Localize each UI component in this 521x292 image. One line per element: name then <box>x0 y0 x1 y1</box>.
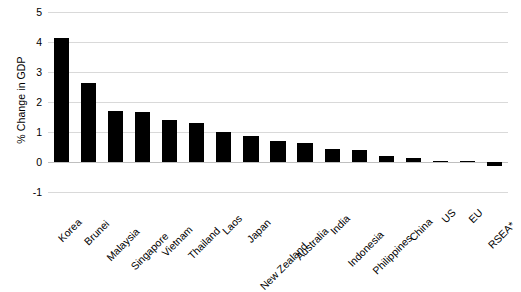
gridline <box>48 192 508 193</box>
y-axis-tick-label: 1 <box>36 126 42 138</box>
x-axis-tick-label: Brunei <box>102 196 132 226</box>
bar <box>108 111 123 162</box>
x-axis-tick-label: US <box>450 196 469 215</box>
plot-area: -1012345 <box>48 12 508 192</box>
bar <box>81 83 96 162</box>
y-axis-tick-label: 2 <box>36 96 42 108</box>
x-axis-tick-label: Japan <box>264 196 293 225</box>
y-axis-tick-label: -1 <box>33 186 42 198</box>
y-axis-tick-label: 3 <box>36 66 42 78</box>
y-axis-tick-label: 0 <box>36 156 42 168</box>
bar <box>460 161 475 162</box>
bar <box>325 149 340 162</box>
x-axis-tick-label: EU <box>477 196 496 215</box>
y-axis-title: % Change in GDP <box>6 0 36 200</box>
x-axis-tick-labels: KoreaBruneiMalaysiaSingaporeVietnamThail… <box>48 196 508 266</box>
bar <box>487 162 502 166</box>
x-axis-tick-label-text: Korea <box>55 216 83 244</box>
y-axis-tick-label: 5 <box>36 6 42 18</box>
x-axis-tick-label: RSEA* <box>509 196 521 228</box>
bar <box>189 123 204 162</box>
x-axis-tick-label-text: Japan <box>244 216 273 245</box>
y-axis-tick-label: 4 <box>36 36 42 48</box>
bar <box>433 161 448 163</box>
bar <box>162 120 177 162</box>
y-axis-title-text: % Change in GDP <box>15 56 27 143</box>
x-axis-tick-label-text: EU <box>466 206 485 225</box>
bar <box>270 141 285 162</box>
bar <box>297 143 312 162</box>
bar <box>406 158 421 163</box>
x-axis-tick-label-text: China <box>407 215 435 243</box>
bar <box>54 38 69 163</box>
x-axis-tick-label-text: RSEA* <box>486 219 518 251</box>
bar <box>243 136 258 162</box>
bar <box>216 132 231 162</box>
bar <box>352 150 367 162</box>
bar-series <box>48 12 508 192</box>
bar <box>135 112 150 162</box>
bar <box>379 156 394 162</box>
